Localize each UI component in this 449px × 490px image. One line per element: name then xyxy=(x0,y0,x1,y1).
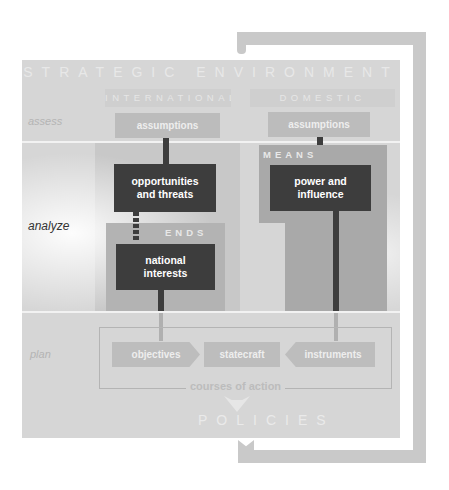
connector-interests-to-objectives xyxy=(158,290,164,311)
feedback-loop-top-stub xyxy=(237,32,246,54)
connector-opportunities-to-interests xyxy=(133,212,139,240)
phase-plan: plan xyxy=(30,348,51,360)
phase-assess: assess xyxy=(28,115,62,127)
domestic-assumptions-box: assumptions xyxy=(268,112,370,137)
diagram-title: STRATEGIC ENVIRONMENT xyxy=(22,64,400,80)
domestic-header: DOMESTIC xyxy=(250,89,395,107)
objectives-chevron: objectives xyxy=(112,342,200,367)
assess-analyze-divider xyxy=(22,141,400,143)
connector-intl-assumptions xyxy=(163,138,169,164)
policies-label: POLICIES xyxy=(198,412,335,428)
opportunities-and-threats-box: opportunities and threats xyxy=(114,164,216,212)
analyze-plan-divider xyxy=(22,311,400,313)
ends-label: ENDS xyxy=(165,227,207,238)
feedback-loop-arrowhead-icon xyxy=(238,440,254,454)
international-assumptions-box: assumptions xyxy=(115,113,220,138)
connector-power-to-instruments xyxy=(333,211,339,311)
national-interests-box: national interests xyxy=(116,244,215,290)
phase-analyze: analyze xyxy=(28,219,69,233)
international-header: INTERNATIONAL xyxy=(105,89,231,107)
means-label: MEANS xyxy=(263,149,317,160)
statecraft-box: statecraft xyxy=(204,342,280,367)
feedback-loop-top-bar xyxy=(237,32,426,45)
feedback-loop-right-bar xyxy=(413,32,426,463)
feedback-loop-bottom-bar xyxy=(238,450,426,463)
power-and-influence-box: power and influence xyxy=(270,165,371,211)
instruments-chevron: instruments xyxy=(285,342,375,367)
courses-of-action-label: courses of action xyxy=(186,380,285,392)
